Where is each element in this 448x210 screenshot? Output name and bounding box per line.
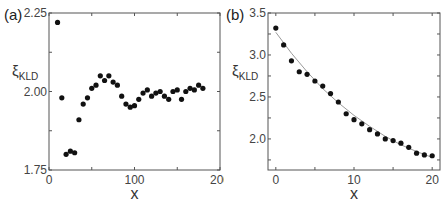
data-point (106, 73, 111, 78)
data-point (359, 121, 364, 126)
scatter-plot-b: 010202.02.53.03.5xξKLD(b) (224, 0, 448, 210)
data-point (93, 83, 98, 88)
data-point (123, 101, 128, 106)
data-point (422, 152, 427, 157)
data-point (98, 73, 103, 78)
data-point (175, 87, 180, 92)
data-point (115, 83, 120, 88)
data-point (158, 89, 163, 94)
data-point (149, 94, 154, 99)
data-point (192, 87, 197, 92)
y-tick-label: 2.00 (24, 85, 48, 99)
data-point (145, 87, 150, 92)
y-tick-label: 2.25 (24, 6, 48, 20)
data-point (81, 101, 86, 106)
x-axis-label: x (350, 185, 358, 202)
data-point (344, 111, 349, 116)
data-point (281, 42, 286, 47)
panel-label: (a) (4, 6, 22, 23)
data-point (328, 91, 333, 96)
data-point (200, 86, 205, 91)
y-tick-label: 2.0 (249, 132, 266, 146)
data-point (183, 89, 188, 94)
chart-panel-b: 010202.02.53.03.5xξKLD(b) (224, 0, 448, 210)
data-point (375, 131, 380, 136)
scatter-plot-a: 01002001.752.002.25xξKLD(a) (0, 0, 224, 210)
data-point (179, 97, 184, 102)
data-point (85, 95, 90, 100)
data-point (320, 83, 325, 88)
y-tick-label: 1.75 (24, 163, 48, 177)
data-point (136, 97, 141, 102)
data-point (89, 86, 94, 91)
data-point (196, 83, 201, 88)
data-point (430, 153, 435, 158)
data-point (55, 20, 60, 25)
data-point (111, 79, 116, 84)
x-axis-label: x (131, 185, 139, 202)
panel-label: (b) (226, 6, 244, 23)
data-point (312, 78, 317, 83)
data-point (406, 145, 411, 150)
data-point (398, 141, 403, 146)
data-point (273, 26, 278, 31)
y-axis-label: ξKLD (232, 62, 258, 82)
data-point (336, 99, 341, 104)
data-point (140, 90, 145, 95)
data-point (72, 150, 77, 155)
data-point (414, 151, 419, 156)
y-tick-label: 2.5 (249, 90, 266, 104)
chart-panel-a: 01002001.752.002.25xξKLD(a) (0, 0, 224, 210)
data-point (132, 103, 137, 108)
x-tick-label: 0 (272, 173, 279, 187)
data-point (119, 94, 124, 99)
y-axis-label: ξKLD (12, 62, 38, 82)
data-point (383, 136, 388, 141)
data-point (76, 117, 81, 122)
x-tick-label: 200 (210, 173, 224, 187)
data-point (59, 95, 64, 100)
data-point (102, 78, 107, 83)
data-point (162, 94, 167, 99)
data-point (351, 117, 356, 122)
data-point (304, 72, 309, 77)
y-tick-label: 3.5 (249, 6, 266, 20)
data-point (390, 138, 395, 143)
fit-curve (276, 32, 432, 157)
data-point (64, 152, 69, 157)
y-tick-label: 3.0 (249, 48, 266, 62)
data-point (367, 127, 372, 132)
data-point (297, 69, 302, 74)
plot-frame (268, 13, 440, 170)
data-point (166, 97, 171, 102)
data-point (289, 58, 294, 63)
x-tick-label: 20 (426, 173, 440, 187)
